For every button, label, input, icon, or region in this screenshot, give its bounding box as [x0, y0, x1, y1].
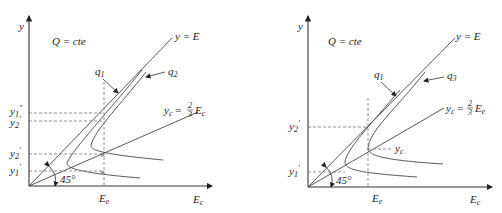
- line-y-equals-E: [29, 38, 172, 186]
- svg-text:2: 2: [468, 99, 472, 108]
- q1-arrow: [103, 79, 118, 93]
- q1-arrow: [381, 82, 396, 96]
- x-tick-Ee: Ee: [371, 192, 383, 206]
- critical-line-label: yc=: [163, 104, 182, 118]
- line-y-equals-E-label: y = E: [455, 30, 481, 42]
- svg-text:Ee: Ee: [474, 102, 486, 116]
- q2-arrow: [146, 72, 165, 77]
- svg-text:3: 3: [187, 110, 192, 119]
- q1-label: q1: [374, 68, 384, 82]
- x-tick-Ee: Ee: [98, 192, 110, 206]
- y-axis-label: y: [297, 20, 303, 32]
- critical-line: [308, 108, 444, 187]
- right-panel: y Ec Q = cte y = E yc= 2 3 Ee q1 q3 yc y…: [288, 16, 492, 207]
- x-axis-label: Ec: [469, 193, 481, 207]
- q3-label: q3: [447, 69, 457, 83]
- condition-label: Q = cte: [52, 35, 86, 47]
- y-axis-label: y: [18, 20, 24, 32]
- cross-marker: ×: [100, 167, 105, 177]
- q2-label: q2: [168, 65, 178, 79]
- line-y-equals-E: [308, 38, 455, 187]
- left-panel: y Ec Q = cte y = E yc= 2 3 Ec q1 q2 × ×: [9, 16, 212, 207]
- y-tick: y2': [288, 119, 300, 134]
- condition-label: Q = cte: [328, 35, 362, 47]
- critical-point-label: yc: [394, 142, 404, 156]
- q3-arrow: [424, 77, 444, 81]
- cross-marker: ×: [100, 150, 105, 160]
- curve-q3: [368, 72, 443, 164]
- angle-arc: [326, 167, 332, 187]
- q1-label: q1: [95, 65, 105, 79]
- angle-label: 45°: [336, 174, 352, 186]
- curve-q1: [345, 90, 417, 177]
- svg-text:2: 2: [188, 101, 192, 110]
- y-tick: y1': [288, 164, 300, 179]
- critical-line-label: yc=: [445, 102, 464, 116]
- x-axis-label: Ec: [192, 193, 204, 207]
- y-tick: y1': [9, 163, 21, 178]
- curve-q1: [67, 70, 142, 178]
- svg-text:Ec: Ec: [194, 104, 206, 118]
- specific-energy-diagrams: y Ec Q = cte y = E yc= 2 3 Ec q1 q2 × ×: [0, 0, 502, 213]
- angle-label: 45°: [60, 173, 76, 185]
- svg-text:3: 3: [467, 108, 472, 117]
- y-tick: y2': [9, 146, 21, 161]
- line-y-equals-E-label: y = E: [174, 30, 200, 42]
